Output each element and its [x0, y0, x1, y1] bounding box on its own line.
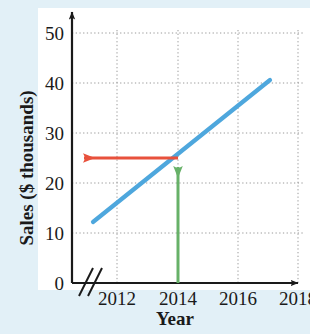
sales-trend-line [93, 80, 270, 222]
y-axis-tick-labels: 50 40 30 20 10 0 [45, 23, 64, 294]
x-axis-tick-labels: 2012 2014 2016 2018 [98, 288, 310, 309]
x-axis-label: Year [110, 308, 240, 330]
x-tick-label-2018: 2018 [279, 288, 310, 309]
horizontal-gridlines [72, 33, 303, 233]
y-tick-label-50: 50 [45, 23, 64, 44]
x-tick-label-2014: 2014 [159, 288, 198, 309]
y-tick-label-0: 0 [55, 273, 65, 294]
y-tick-label-20: 20 [45, 173, 64, 194]
x-tick-label-2012: 2012 [98, 288, 136, 309]
sales-vs-year-chart: 50 40 30 20 10 0 2012 2014 2016 2018 Sal… [0, 0, 310, 334]
y-tick-label-30: 30 [45, 123, 64, 144]
y-tick-label-10: 10 [45, 223, 64, 244]
chart-plot-area: 50 40 30 20 10 0 2012 2014 2016 2018 [0, 0, 310, 334]
x-tick-label-2016: 2016 [219, 288, 257, 309]
y-axis-label: Sales ($ thousands) [16, 53, 38, 283]
y-tick-label-40: 40 [45, 73, 64, 94]
